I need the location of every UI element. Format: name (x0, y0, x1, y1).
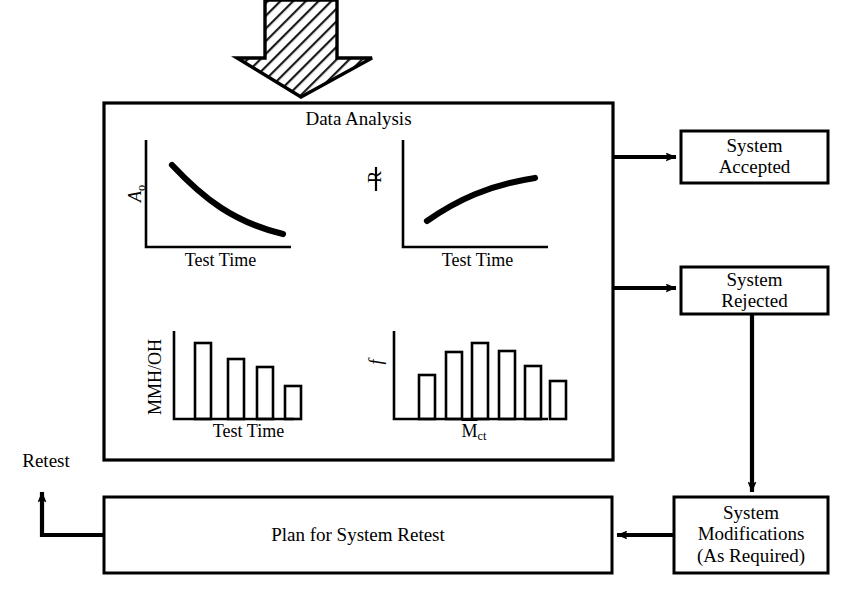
chart-mmh-oh-ylabel: MMH/OH (145, 322, 165, 432)
data-analysis-box (104, 103, 613, 460)
chart-mmh-oh-xlabel: Test Time (176, 421, 321, 441)
chart-ao-ylabel: Ao (125, 164, 148, 224)
chart-r-vs-test-time (376, 140, 548, 247)
chart-frequency-ylabel: f (366, 344, 386, 380)
chart-ao-ylabel-sub: o (134, 185, 148, 191)
chart-mct-xlabel-sub: ct (478, 429, 487, 443)
chart-ao-xlabel: Test Time (148, 250, 293, 270)
connector-plan-to-retest (42, 492, 104, 535)
system-accepted-line-1: System (727, 135, 783, 156)
system-accepted-label: SystemAccepted (681, 135, 828, 178)
hatched-down-arrow (237, 0, 372, 97)
chart-mct-xlabel-base: M (462, 421, 478, 441)
system-accepted-line-2: Accepted (719, 156, 791, 177)
chart-mct-xlabel: Mct (398, 421, 550, 444)
system-rejected-label: SystemRejected (681, 269, 828, 312)
chart-r-ylabel: R (365, 157, 385, 197)
chart-mmh-oh-vs-test-time (174, 331, 301, 419)
system-rejected-line-2: Rejected (721, 290, 787, 311)
retest-label: Retest (0, 450, 92, 471)
chart-ao-vs-test-time (146, 140, 291, 247)
plan-for-system-retest-label: Plan for System Retest (104, 524, 612, 545)
system-modifications-line-3: (As Required) (697, 545, 805, 566)
data-analysis-title: Data Analysis (104, 108, 613, 129)
diagram-canvas: Data Analysis Ao Test Time R Test Time M… (0, 0, 847, 591)
chart-ao-ylabel-base: A (125, 191, 145, 202)
chart-r-xlabel: Test Time (405, 250, 550, 270)
system-modifications-line-1: System (723, 502, 779, 523)
system-modifications-line-2: Modifications (698, 523, 805, 544)
system-rejected-line-1: System (727, 269, 783, 290)
chart-frequency-vs-mct (394, 331, 566, 419)
system-modifications-label: SystemModifications(As Required) (672, 502, 830, 566)
